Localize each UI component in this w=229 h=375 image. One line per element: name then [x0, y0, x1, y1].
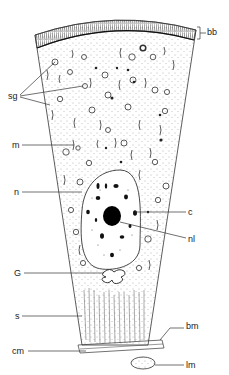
- label-lm: lm: [186, 361, 196, 370]
- label-n: n: [14, 188, 19, 197]
- golgi: [102, 270, 125, 284]
- label-bm: bm: [186, 322, 199, 331]
- label-sg: sg: [8, 92, 18, 101]
- label-bb: bb: [207, 28, 217, 37]
- label-m: m: [12, 141, 20, 150]
- label-c: c: [188, 208, 193, 217]
- nucleolus: [103, 206, 121, 226]
- label-G: G: [14, 269, 21, 278]
- cell-diagram: [0, 0, 229, 375]
- label-cm: cm: [12, 347, 24, 356]
- label-s: s: [15, 312, 20, 321]
- label-nl: nl: [188, 235, 195, 244]
- lm-cell: [131, 357, 155, 369]
